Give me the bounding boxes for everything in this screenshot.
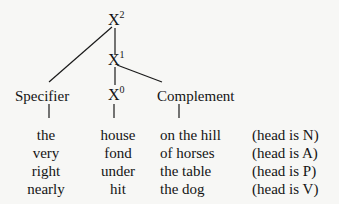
specifier-cell: very bbox=[10, 144, 82, 162]
example-row: nearly hit the dog (head is V) bbox=[0, 180, 339, 198]
node-x2-level: 2 bbox=[120, 9, 125, 20]
node-x1-level: 1 bbox=[120, 49, 125, 60]
node-x1: X1 bbox=[108, 52, 125, 70]
complement-cell: the table bbox=[160, 162, 211, 180]
head-note: (head is N) bbox=[252, 126, 319, 144]
node-x0-level: 0 bbox=[120, 84, 125, 95]
head-cell: house bbox=[90, 126, 146, 144]
specifier-cell: right bbox=[10, 162, 82, 180]
node-x1-base: X bbox=[108, 51, 120, 68]
branch-x2-specifier bbox=[49, 27, 112, 82]
node-x0: X0 bbox=[108, 87, 125, 105]
node-x0-base: X bbox=[108, 86, 120, 103]
complement-cell: of horses bbox=[160, 144, 215, 162]
head-note: (head is P) bbox=[252, 162, 316, 180]
node-x2: X2 bbox=[108, 12, 125, 30]
specifier-cell: nearly bbox=[10, 180, 82, 198]
head-note: (head is A) bbox=[252, 144, 318, 162]
label-complement: Complement bbox=[157, 88, 235, 104]
node-x2-base: X bbox=[108, 11, 120, 28]
head-cell: under bbox=[90, 162, 146, 180]
specifier-cell: the bbox=[10, 126, 82, 144]
example-row: the house on the hill (head is N) bbox=[0, 126, 339, 144]
head-note: (head is V) bbox=[252, 180, 318, 198]
label-specifier: Specifier bbox=[15, 88, 69, 104]
head-cell: fond bbox=[90, 144, 146, 162]
complement-cell: on the hill bbox=[160, 126, 221, 144]
complement-cell: the dog bbox=[160, 180, 205, 198]
x-bar-tree-diagram: X2 X1 X0 Specifier Complement the house … bbox=[0, 0, 339, 204]
example-row: very fond of horses (head is A) bbox=[0, 144, 339, 162]
example-row: right under the table (head is P) bbox=[0, 162, 339, 180]
head-cell: hit bbox=[90, 180, 146, 198]
